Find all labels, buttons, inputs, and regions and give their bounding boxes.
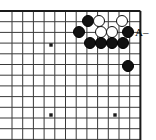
go-board-figure: A– — [0, 0, 156, 140]
go-board-grid — [0, 0, 156, 140]
point-label-a: A — [135, 27, 143, 38]
stone-black-r3-c4 — [117, 37, 129, 49]
star-point-left-upper — [49, 43, 52, 46]
label-leader-dash: – — [143, 27, 149, 38]
star-point-right-lower — [113, 113, 116, 116]
stone-black-isolated — [122, 60, 134, 72]
star-point-left-lower — [49, 113, 52, 116]
stone-black-r2-c0 — [73, 26, 85, 38]
